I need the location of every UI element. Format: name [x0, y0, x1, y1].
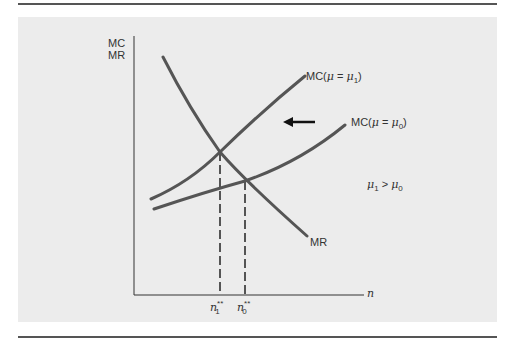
mc-mu0-curve [154, 125, 345, 209]
label-mr: MR [310, 236, 327, 248]
mr-curve [163, 57, 307, 236]
mc-mu1-curve [151, 76, 305, 199]
diagram-canvas [0, 0, 514, 345]
x-axis-label: n [367, 288, 374, 300]
shift-arrow-icon [283, 117, 315, 127]
y-axis-label: MC MR [108, 37, 125, 61]
tick-label-n1: n**1 [210, 298, 220, 318]
label-mc-mu0: MC(μ = μ0) [351, 116, 407, 133]
tick-label-n0: n**0 [237, 298, 247, 318]
label-mc-mu1: MC(μ = μ1) [306, 70, 362, 87]
condition-label: μ1 > μ0 [367, 178, 403, 195]
